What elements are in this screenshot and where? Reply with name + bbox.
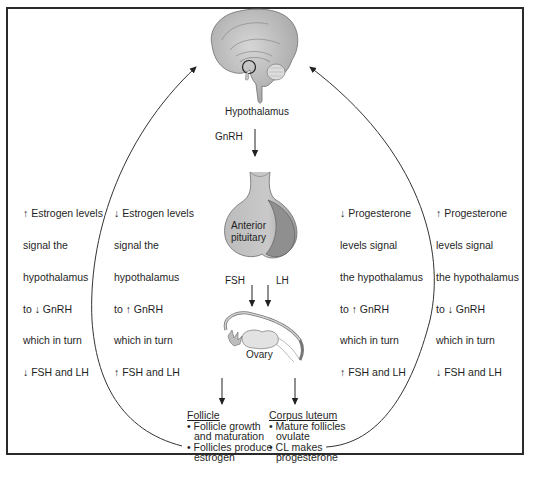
text-line: to ↓ GnRH (436, 304, 519, 315)
text-line: to ↑ GnRH (340, 304, 423, 315)
estrogen-high-feedback-text: ↑ Estrogen levels signal the hypothalamu… (23, 187, 103, 388)
corpus-luteum-outcome: Corpus luteum • Mature follicles ovulate… (269, 410, 346, 463)
progesterone-low-feedback-text: ↓ Progesterone levels signal the hypotha… (340, 187, 423, 388)
text-line: the hypothalamus (340, 272, 423, 283)
text-line: ↓ FSH and LH (436, 367, 519, 378)
follicle-heading: Follicle (187, 410, 272, 421)
ovary-label: Ovary (246, 349, 273, 360)
follicle-line: estrogen (187, 452, 272, 463)
progesterone-high-feedback-text: ↑ Progesterone levels signal the hypotha… (436, 187, 519, 388)
estrogen-low-feedback-text: ↓ Estrogen levels signal the hypothalamu… (114, 187, 194, 388)
corpus-luteum-heading: Corpus luteum (269, 410, 346, 421)
text-line: which in turn (436, 335, 519, 346)
text-line: hypothalamus (114, 272, 194, 283)
hypothalamus-label: Hypothalamus (225, 106, 289, 117)
gnrh-label: GnRH (215, 131, 243, 142)
brain-illustration (211, 9, 298, 103)
text-line: levels signal (436, 240, 519, 251)
text-line: signal the (23, 240, 103, 251)
lh-label: LH (276, 275, 289, 286)
text-line: levels signal (340, 240, 423, 251)
text-line: ↓ Progesterone (340, 208, 423, 219)
text-line: ↑ FSH and LH (340, 367, 423, 378)
text-line: to ↑ GnRH (114, 304, 194, 315)
text-line: the hypothalamus (436, 272, 519, 283)
text-line: ↑ Estrogen levels (23, 208, 103, 219)
text-line: ↓ Estrogen levels (114, 208, 194, 219)
text-line: which in turn (23, 335, 103, 346)
text-line: ↓ FSH and LH (23, 367, 103, 378)
corpus-luteum-line: progesterone (269, 452, 346, 463)
text-line: ↑ FSH and LH (114, 367, 194, 378)
text-line: which in turn (114, 335, 194, 346)
text-line: to ↓ GnRH (23, 304, 103, 315)
follicle-outcome: Follicle • Follicle growth and maturatio… (187, 410, 272, 463)
text-line: hypothalamus (23, 272, 103, 283)
pituitary-label-line2: pituitary (231, 232, 266, 243)
text-line: ↑ Progesterone (436, 208, 519, 219)
pituitary-label-line1: Anterior (231, 220, 266, 231)
pituitary-illustration (225, 172, 297, 258)
text-line: signal the (114, 240, 194, 251)
text-line: which in turn (340, 335, 423, 346)
fsh-label: FSH (225, 275, 245, 286)
